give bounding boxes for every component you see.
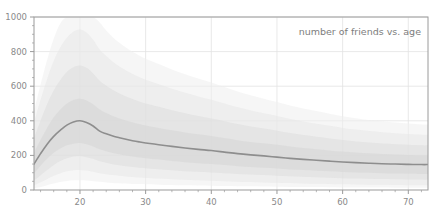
- x-tick-label: 70: [403, 197, 414, 207]
- x-tick-label: 50: [272, 197, 283, 207]
- y-tick-label: 0: [22, 185, 27, 195]
- chart-title: number of friends vs. age: [299, 26, 421, 37]
- x-tick-label: 60: [337, 197, 348, 207]
- x-axis-tick-labels: 203040506070: [75, 197, 414, 207]
- y-tick-label: 800: [11, 47, 27, 57]
- x-tick-label: 20: [75, 197, 86, 207]
- y-tick-label: 1000: [5, 12, 27, 22]
- chart-container: 02004006008001000 203040506070 number of…: [0, 0, 440, 220]
- x-tick-label: 40: [206, 197, 217, 207]
- fan-chart: 02004006008001000 203040506070 number of…: [0, 0, 440, 220]
- x-tick-label: 30: [140, 197, 151, 207]
- y-tick-label: 200: [11, 150, 27, 160]
- y-tick-label: 400: [11, 116, 27, 126]
- y-tick-label: 600: [11, 81, 27, 91]
- y-axis-tick-labels: 02004006008001000: [5, 12, 27, 195]
